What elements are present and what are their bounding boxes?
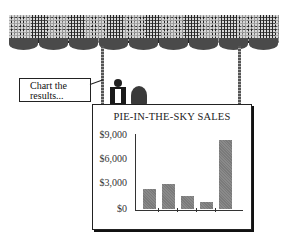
bar-2 bbox=[162, 184, 175, 209]
x-tick bbox=[177, 208, 178, 212]
y-axis bbox=[135, 134, 136, 210]
y-tick-label: $3,000 bbox=[100, 177, 128, 188]
vendor-figure bbox=[110, 79, 126, 105]
y-tick-label: $6,000 bbox=[100, 153, 128, 164]
left-pole bbox=[101, 46, 104, 106]
x-axis bbox=[135, 210, 243, 211]
right-pole bbox=[238, 46, 241, 106]
y-tick-label: $9,000 bbox=[100, 129, 128, 140]
bar-3 bbox=[181, 196, 194, 209]
x-tick bbox=[215, 208, 216, 212]
bush-illustration bbox=[131, 86, 147, 105]
speech-bubble: Chart the results... bbox=[19, 78, 91, 102]
x-tick bbox=[158, 208, 159, 212]
chart-title: PIE-IN-THE-SKY SALES bbox=[93, 111, 251, 122]
bar-4 bbox=[200, 202, 213, 209]
bar-1 bbox=[143, 189, 156, 209]
x-tick bbox=[196, 208, 197, 212]
sales-chart-board: PIE-IN-THE-SKY SALES $9,000 $6,000 $3,00… bbox=[92, 104, 252, 230]
y-tick-label: $0 bbox=[117, 203, 127, 214]
bar-5 bbox=[219, 140, 232, 209]
speech-bubble-text: Chart the results... bbox=[30, 80, 67, 101]
